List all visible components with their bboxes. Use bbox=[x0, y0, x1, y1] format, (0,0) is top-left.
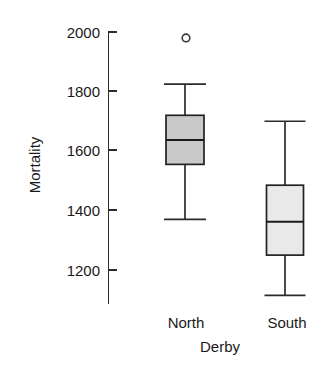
y-tick-label-1200: 1200 bbox=[67, 262, 100, 279]
box-group-south bbox=[265, 121, 306, 295]
y-tick-label-1600: 1600 bbox=[67, 142, 100, 159]
y-tick-label-1800: 1800 bbox=[67, 83, 100, 100]
y-tick-label-1400: 1400 bbox=[67, 202, 100, 219]
outlier-point-north bbox=[182, 34, 190, 42]
boxplot-figure: 2000 1800 1600 1400 1200 Mortality bbox=[0, 0, 331, 370]
y-tick-label-2000: 2000 bbox=[67, 24, 100, 41]
x-category-label-south: South bbox=[267, 314, 306, 331]
x-category-label-north: North bbox=[168, 314, 205, 331]
box-group-north bbox=[164, 34, 206, 219]
boxplot-canvas: 2000 1800 1600 1400 1200 Mortality bbox=[0, 0, 331, 370]
box-south bbox=[267, 185, 304, 255]
y-axis-title: Mortality bbox=[26, 136, 43, 193]
x-axis-title: Derby bbox=[200, 338, 241, 355]
